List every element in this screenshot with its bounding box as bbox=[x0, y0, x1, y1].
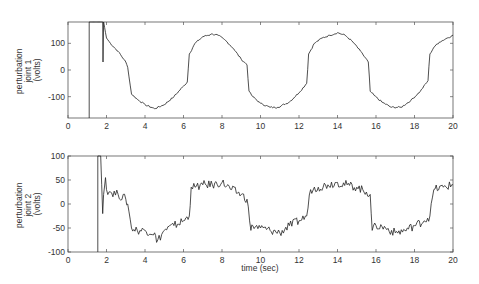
x-tick-label: 8 bbox=[220, 255, 225, 265]
x-tick-label: 12 bbox=[294, 121, 304, 131]
plot-joint-1: 02468101214161820 1000-100 perturbation … bbox=[14, 22, 458, 131]
y-tick-label: -100 bbox=[48, 92, 65, 102]
x-tick-label: 20 bbox=[448, 121, 458, 131]
y-tick-label: -100 bbox=[48, 247, 65, 257]
y-tick-label: 50 bbox=[56, 175, 66, 185]
x-axis-ticks-top: 02468101214161820 bbox=[66, 22, 458, 131]
series-line-joint-2 bbox=[98, 156, 453, 252]
x-tick-label: 12 bbox=[294, 255, 304, 265]
x-tick-label: 6 bbox=[181, 255, 186, 265]
y-tick-label: 0 bbox=[60, 65, 65, 75]
x-tick-label: 14 bbox=[333, 255, 343, 265]
y-axis-label-top: perturbation joint 1 (volts) bbox=[14, 46, 42, 94]
x-tick-label: 8 bbox=[220, 121, 225, 131]
y-tick-label: 100 bbox=[51, 38, 65, 48]
x-tick-label: 14 bbox=[333, 121, 343, 131]
y-axis-label-bottom: perturbation joint 2 (volts) bbox=[14, 180, 42, 228]
x-tick-label: 10 bbox=[256, 121, 266, 131]
y-tick-label: 100 bbox=[51, 151, 65, 161]
x-tick-label: 16 bbox=[371, 255, 381, 265]
x-tick-label: 20 bbox=[448, 255, 458, 265]
plot-frame-bottom bbox=[68, 156, 453, 252]
chart-figure: 02468101214161820 1000-100 perturbation … bbox=[0, 0, 479, 284]
y-tick-label: 0 bbox=[60, 199, 65, 209]
plot-joint-2: 02468101214161820 100500-50-100 perturba… bbox=[14, 151, 458, 273]
x-tick-label: 18 bbox=[410, 255, 420, 265]
x-tick-label: 4 bbox=[143, 121, 148, 131]
x-axis-ticks-bottom: 02468101214161820 bbox=[66, 156, 458, 265]
x-tick-label: 2 bbox=[104, 255, 109, 265]
x-axis-label: time (sec) bbox=[241, 263, 278, 273]
series-line-joint-1 bbox=[89, 22, 453, 118]
x-tick-label: 0 bbox=[66, 255, 71, 265]
x-tick-label: 6 bbox=[181, 121, 186, 131]
x-tick-label: 0 bbox=[66, 121, 71, 131]
x-tick-label: 18 bbox=[410, 121, 420, 131]
x-tick-label: 2 bbox=[104, 121, 109, 131]
y-tick-label: -50 bbox=[53, 223, 66, 233]
y-axis-ticks-bottom: 100500-50-100 bbox=[48, 151, 453, 257]
x-tick-label: 4 bbox=[143, 255, 148, 265]
x-tick-label: 16 bbox=[371, 121, 381, 131]
